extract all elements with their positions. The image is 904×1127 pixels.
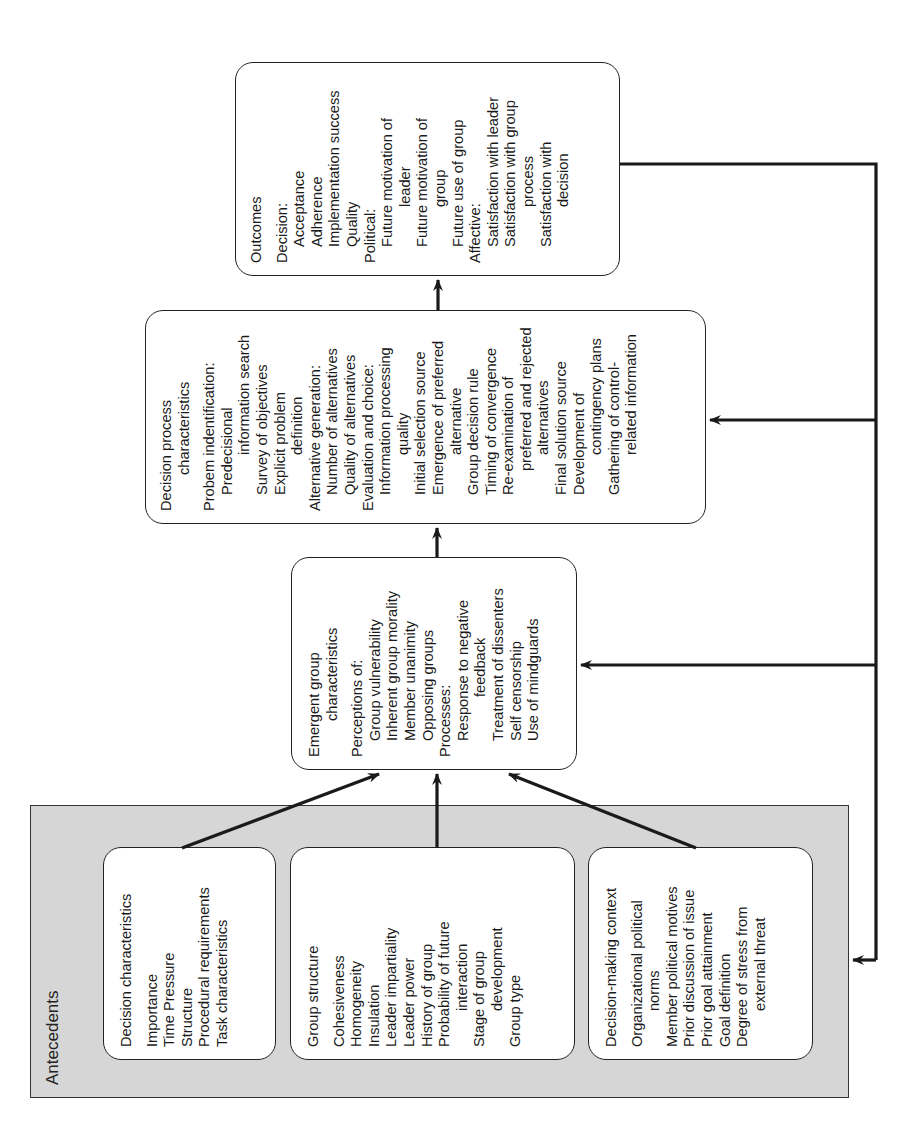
connector-arrows [0,0,904,1127]
feedback-line [620,164,876,960]
diagram-stage: Antecedents Decision characteristics Imp… [0,0,904,1127]
arrow-decision-making-context-to-emergent [509,774,696,848]
arrow-decision-characteristics-to-emergent [182,774,379,848]
